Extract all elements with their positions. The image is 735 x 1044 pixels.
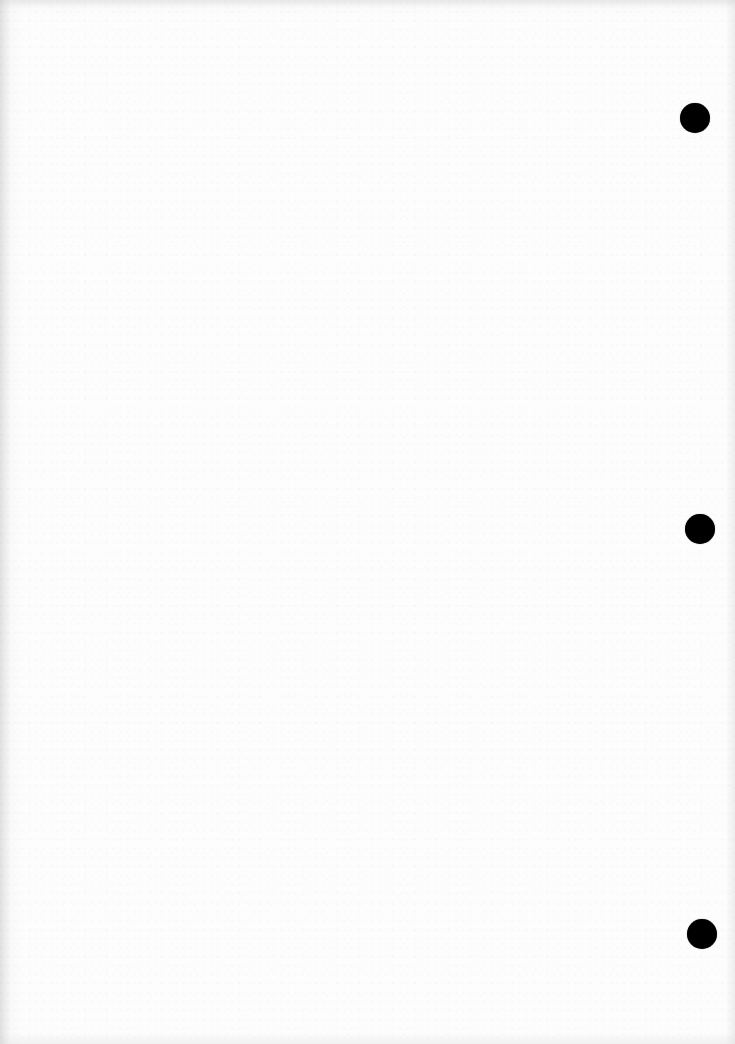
punch-hole-middle (685, 514, 715, 544)
paper-texture (0, 0, 735, 1044)
punch-hole-top (680, 103, 710, 133)
page-content (0, 0, 1, 1)
punch-hole-bottom (687, 919, 717, 949)
scanned-blank-page (0, 0, 735, 1044)
